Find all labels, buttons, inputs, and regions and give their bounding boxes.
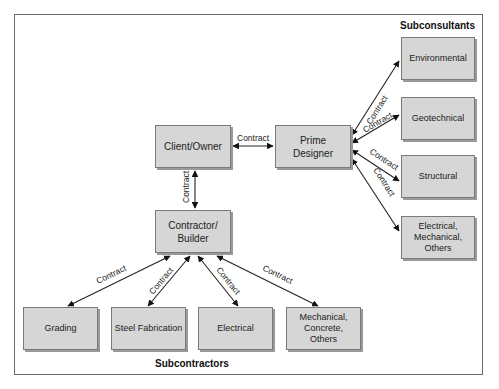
edge-label: Contract — [147, 265, 176, 297]
node-grading: Grading — [23, 307, 98, 350]
subconsultants-label: Subconsultants — [400, 20, 475, 31]
node-electrical: Electrical — [198, 307, 273, 350]
edge-label: Contract — [181, 170, 191, 203]
node-steel-fabrication: Steel Fabrication — [111, 307, 186, 350]
subcontractors-label: Subcontractors — [155, 358, 229, 369]
node-geotechnical: Geotechnical — [401, 97, 475, 140]
edge-label: Contract — [237, 133, 270, 143]
node-client-owner: Client/Owner — [155, 125, 231, 168]
edge-label: Contract — [214, 265, 242, 297]
edge-label: Contract — [94, 262, 128, 285]
node-contractor-builder: Contractor/ Builder — [155, 210, 231, 253]
node-electrical-mechanical-others: Electrical, Mechanical, Others — [401, 216, 475, 259]
node-environmental: Environmental — [401, 37, 475, 80]
node-prime-designer: Prime Designer — [275, 125, 351, 168]
node-mechanical-concrete-others: Mechanical, Concrete, Others — [286, 307, 361, 350]
edge-label: Contract — [261, 263, 295, 286]
node-structural: Structural — [401, 155, 475, 198]
edge-label: Contract — [368, 146, 401, 172]
